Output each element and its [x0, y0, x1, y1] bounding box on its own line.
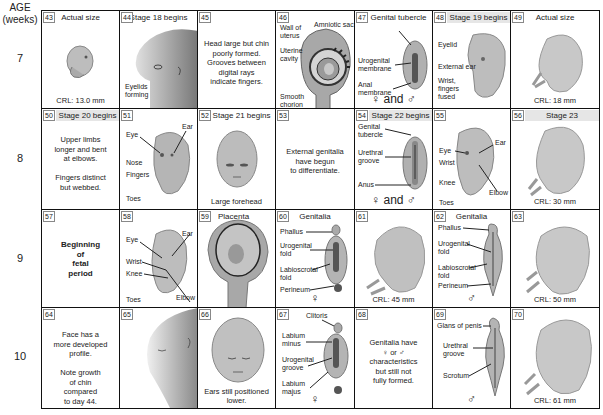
- label-urethral-groove: Urethral groove: [358, 149, 383, 165]
- day-53-cell: 53 External genitalia have begun to diff…: [276, 109, 355, 210]
- day-number: 54: [356, 110, 368, 121]
- day-number: 46: [277, 12, 289, 23]
- head-profile-illustration-icon: [120, 308, 198, 408]
- fetus-illustration-icon: [511, 308, 599, 408]
- label-amniotic-sac: Amniotic sac: [314, 21, 354, 29]
- day-69-cell: 69 Glans of penis Urethral groove Scrotu…: [433, 308, 511, 408]
- day-57-cell: 57 Beginning of fetal period: [42, 210, 120, 308]
- day-number: 64: [43, 309, 55, 320]
- label-genital-tubercle: Genital tubercle: [358, 123, 383, 139]
- day-number: 62: [434, 211, 446, 222]
- placenta-uterus-illustration-icon: [198, 210, 276, 308]
- day-51-cell: 51 Eye Ear Nose Fingers Toes: [120, 109, 198, 210]
- week-label-10: 10: [0, 350, 40, 362]
- label-phallus: Phallus: [438, 224, 461, 232]
- day-number: 66: [199, 309, 211, 320]
- day-44-cell: 44 Stage 18 begins Eyelids forming: [120, 11, 198, 109]
- label-elbow: Elbow: [489, 189, 508, 197]
- label-urogenital-fold: Urogenital fold: [280, 242, 312, 258]
- day-number: 44: [121, 12, 133, 23]
- week-label-9: 9: [0, 252, 40, 264]
- crl-measurement: CRL: 18 mm: [511, 96, 599, 105]
- crl-measurement: CRL: 13.0 mm: [42, 96, 119, 105]
- day-48-cell: 48 Stage 19 begins Eyelid External ear W…: [433, 11, 511, 109]
- label-labioscrotal-fold: Labioscrotal fold: [280, 266, 318, 282]
- label-wall-of-uterus: Wall of uterus: [280, 24, 301, 40]
- day-number: 60: [277, 211, 289, 222]
- day-46-cell: 46 Wall of uterus Amniotic sac Uterine c…: [276, 11, 355, 109]
- week-label-8: 8: [0, 152, 40, 164]
- description-text: Genitalia have ♀ or ♂ characteristics bu…: [359, 338, 428, 386]
- cell-header: Stage 20 begins: [56, 110, 119, 121]
- sex-symbols: ♀ and ♂: [355, 193, 432, 207]
- label-placenta: Placenta: [218, 213, 249, 221]
- label-glans-of-penis: Glans of penis: [437, 322, 482, 330]
- day-number: 56: [512, 110, 524, 121]
- embryo-illustration-icon: [511, 109, 599, 210]
- label-fingers: Fingers: [126, 171, 149, 179]
- day-number: 69: [434, 309, 446, 320]
- label-wrist: Wrist: [126, 258, 142, 266]
- label-nose: Nose: [126, 159, 142, 167]
- face-front-illustration-icon: [198, 109, 276, 210]
- day-number: 70: [512, 309, 524, 320]
- embryo-illustration-icon: [511, 11, 599, 109]
- day-number: 63: [512, 211, 524, 222]
- label-urethral-groove: Urethral groove: [443, 342, 468, 358]
- day-68-cell: 68 Genitalia have ♀ or ♂ characteristics…: [355, 308, 433, 408]
- day-number: 58: [121, 211, 133, 222]
- cell-header: Actual size: [511, 12, 599, 23]
- day-55-cell: 55 Eye Ear Wrist Knee Elbow Toes: [433, 109, 511, 210]
- day-45-cell: 45 Head large but chin poorly formed. Gr…: [198, 11, 276, 109]
- label-smooth-chorion: Smooth chorion: [280, 93, 304, 109]
- label-anus: Anus: [358, 181, 374, 189]
- label-urogenital-membrane: Urogenital membrane: [358, 57, 391, 73]
- day-number: 45: [199, 12, 211, 23]
- embryo-illustration-icon: [42, 11, 120, 109]
- fetus-illustration-icon: [511, 210, 599, 308]
- cell-header: Stage 23: [525, 110, 599, 121]
- female-symbol: ♀: [276, 392, 354, 406]
- day-number: 49: [512, 12, 524, 23]
- label-eye: Eye: [126, 236, 138, 244]
- day-number: 59: [199, 211, 211, 222]
- label-ear: Ear: [182, 123, 193, 131]
- cell-header: Stage 22 begins: [369, 110, 432, 121]
- day-64-cell: 64 Face has a more developed profile. No…: [42, 308, 120, 408]
- day-63-cell: 63 CRL: 50 mm: [511, 210, 599, 308]
- crl-measurement: CRL: 50 mm: [511, 295, 599, 304]
- label-external-ear: External ear: [438, 63, 476, 71]
- week-label-7: 7: [0, 52, 40, 64]
- day-number: 48: [434, 12, 446, 23]
- label-urogenital-fold: Urogenital fold: [438, 240, 470, 256]
- day-58-cell: 58 Eye Ear Wrist Knee Elbow Toes: [120, 210, 198, 308]
- fetus-illustration-icon: [355, 210, 433, 308]
- day-70-cell: 70 CRL: 61 mm: [511, 308, 599, 408]
- label-ear: Ear: [182, 230, 193, 238]
- description-text: Head large but chin poorly formed. Groov…: [202, 39, 271, 87]
- label-elbow: Elbow: [176, 294, 195, 302]
- male-symbol: ♂: [433, 291, 510, 305]
- description-text: External genitalia have begun to differe…: [280, 147, 350, 176]
- label-labioscrotal-fold: Labioscrotal fold: [438, 264, 476, 280]
- male-symbol: ♂: [433, 392, 510, 406]
- description-text: Face has a more developed profile. Note …: [46, 330, 115, 406]
- label-ear: Ear: [495, 139, 506, 147]
- label-urogenital-groove: Urogenital groove: [282, 356, 314, 372]
- label-wrist-fingers-fused: Wrist, fingers fused: [438, 77, 459, 101]
- label-knee: Knee: [126, 270, 142, 278]
- day-number: 47: [356, 12, 368, 23]
- day-number: 57: [43, 211, 55, 222]
- label-clitoris: Clitoris: [306, 312, 327, 320]
- day-number: 52: [199, 110, 211, 121]
- crl-measurement: CRL: 61 mm: [511, 396, 599, 405]
- crl-measurement: CRL: 30 mm: [511, 197, 599, 206]
- caption: Large forehead: [198, 197, 275, 206]
- caption: Ears still positioned lower.: [198, 387, 275, 405]
- day-49-cell: 49 Actual size CRL: 18 mm: [511, 11, 599, 109]
- label-labium-minus: Labium minus: [282, 332, 305, 348]
- day-66-cell: 66 Ears still positioned lower.: [198, 308, 276, 408]
- cell-header: Stage 19 begins: [447, 12, 510, 23]
- description-text: Beginning of fetal period: [46, 240, 115, 278]
- label-eyelids-forming: Eyelids forming: [125, 83, 148, 99]
